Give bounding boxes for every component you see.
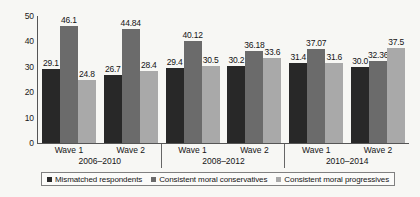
wave-label: Wave 1 [166, 146, 220, 155]
bar-chart-figure: 01020304050 29.146.124.826.744.8428.429.… [0, 0, 420, 197]
bar: 30.2 [227, 66, 245, 143]
bar-value-label: 37.07 [306, 39, 326, 48]
legend-label: Mismatched respondents [55, 175, 142, 184]
bar-value-label: 28.4 [141, 61, 157, 70]
bar-value-label: 46.1 [61, 16, 77, 25]
bar-value-label: 44.84 [121, 19, 141, 28]
bar: 37.07 [307, 49, 325, 143]
legend-swatch-icon [47, 177, 52, 182]
bar-value-label: 31.4 [290, 53, 306, 62]
legend-item: Mismatched respondents [47, 175, 142, 184]
bar-value-label: 32.36 [368, 51, 388, 60]
bar: 30.5 [202, 66, 220, 143]
bar: 30.0 [351, 67, 369, 143]
y-axis: 01020304050 [8, 0, 34, 197]
bar-value-label: 40.12 [182, 31, 202, 40]
category-axis: Wave 1Wave 2Wave 1Wave 2Wave 1Wave 22006… [37, 144, 409, 168]
bar-value-label: 26.7 [105, 65, 121, 74]
legend-item: Consistent moral progressives [276, 175, 389, 184]
legend-swatch-icon [276, 177, 281, 182]
legend-label: Consistent moral conservatives [159, 175, 267, 184]
bar: 46.1 [60, 26, 78, 143]
bar-group: 30.032.3637.5 [351, 16, 405, 143]
bar-group: 29.440.1230.5 [166, 16, 220, 143]
bar-value-label: 31.6 [326, 53, 342, 62]
bar: 24.8 [78, 80, 96, 143]
y-axis-tick-label: 50 [8, 12, 34, 21]
bar: 26.7 [104, 75, 122, 143]
chart-legend: Mismatched respondentsConsistent moral c… [41, 172, 395, 186]
group-separator [161, 144, 162, 168]
bar: 32.36 [369, 61, 387, 143]
bar: 29.4 [166, 68, 184, 143]
bar-value-label: 30.0 [352, 57, 368, 66]
wave-label: Wave 2 [227, 146, 281, 155]
y-axis-tick-label: 40 [8, 37, 34, 46]
bar-value-label: 30.2 [229, 56, 245, 65]
bar: 29.1 [42, 69, 60, 143]
legend-swatch-icon [151, 177, 156, 182]
wave-label: Wave 1 [42, 146, 96, 155]
bar: 37.5 [387, 48, 405, 143]
bar: 31.6 [325, 63, 343, 143]
period-label: 2006–2010 [42, 157, 158, 166]
period-label: 2008–2012 [166, 157, 282, 166]
bar-value-label: 33.6 [265, 48, 281, 57]
wave-label: Wave 2 [351, 146, 405, 155]
bar-group: 26.744.8428.4 [104, 16, 158, 143]
bar-value-label: 29.1 [43, 59, 59, 68]
bar: 40.12 [184, 41, 202, 143]
bar-group: 31.437.0731.6 [289, 16, 343, 143]
bar: 44.84 [122, 29, 140, 143]
bar-group: 29.146.124.8 [42, 16, 96, 143]
bar-value-label: 29.4 [167, 58, 183, 67]
legend-item: Consistent moral conservatives [151, 175, 267, 184]
bar: 36.18 [245, 51, 263, 143]
bar-value-label: 24.8 [79, 70, 95, 79]
y-axis-tick-label: 20 [8, 88, 34, 97]
legend-label: Consistent moral progressives [284, 175, 389, 184]
group-separator [284, 144, 285, 168]
bar-value-label: 36.18 [244, 41, 264, 50]
bar-value-label: 30.5 [203, 56, 219, 65]
y-axis-tick-label: 10 [8, 114, 34, 123]
period-label: 2010–2014 [289, 157, 405, 166]
bar: 28.4 [140, 71, 158, 143]
y-axis-tick-label: 0 [8, 139, 34, 148]
plot-area: 29.146.124.826.744.8428.429.440.1230.530… [38, 16, 409, 143]
y-axis-tick-label: 30 [8, 63, 34, 72]
wave-label: Wave 1 [289, 146, 343, 155]
bar: 31.4 [289, 63, 307, 143]
bar-value-label: 37.5 [388, 38, 404, 47]
bar: 33.6 [263, 58, 281, 143]
bar-group: 30.236.1833.6 [227, 16, 281, 143]
wave-label: Wave 2 [104, 146, 158, 155]
